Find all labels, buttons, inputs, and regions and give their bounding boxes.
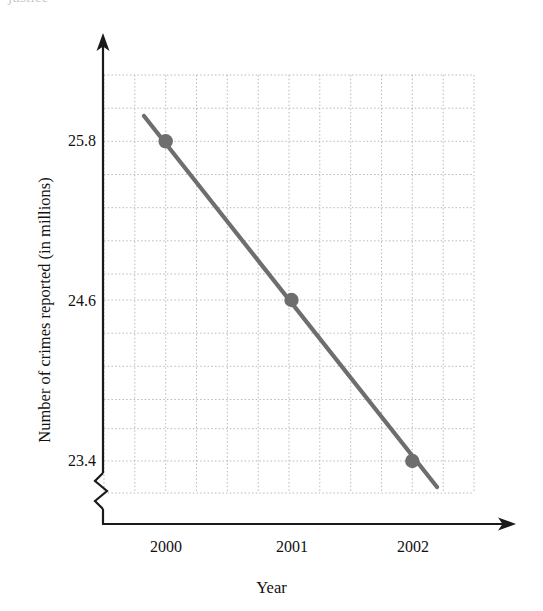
y-axis-break-icon (95, 473, 107, 509)
data-point-2002 (405, 454, 419, 468)
x-tick-label-2002: 2002 (378, 538, 448, 556)
y-axis-title: Number of crimes reported (in millions) (35, 110, 55, 510)
data-point-2000 (159, 134, 173, 148)
x-tick-label-2001: 2001 (257, 538, 327, 556)
chart-figure: justice (0, 0, 543, 611)
x-axis-title: Year (0, 578, 543, 598)
x-tick-label-2000: 2000 (131, 538, 201, 556)
data-point-2001 (284, 293, 298, 307)
